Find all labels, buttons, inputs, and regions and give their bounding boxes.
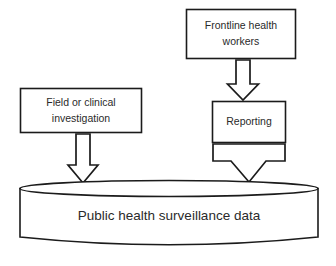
node-field-or-clinical-investigation-label-line2: investigation [52, 112, 111, 124]
node-frontline-health-workers-label-line2: workers [222, 35, 260, 47]
diagram-canvas: Frontline health workers Field or clinic… [0, 0, 336, 266]
arrow-investigation-to-data-store [68, 134, 98, 183]
flow-diagram: Frontline health workers Field or clinic… [0, 0, 336, 266]
node-frontline-health-workers-label-line1: Frontline health [205, 19, 278, 31]
node-public-health-surveillance-data-top [20, 181, 318, 197]
node-public-health-surveillance-data-label: Public health surveillance data [78, 208, 261, 223]
arrow-workers-to-reporting [228, 60, 259, 100]
node-reporting-label: Reporting [226, 115, 272, 127]
node-field-or-clinical-investigation-label-line1: Field or clinical [46, 96, 115, 108]
arrow-reporting-to-data-store [213, 144, 285, 182]
